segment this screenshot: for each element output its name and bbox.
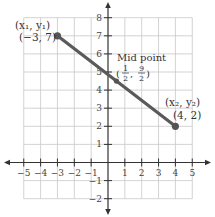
frac2-num: 9: [139, 64, 144, 73]
x-tick-label: −2: [68, 168, 81, 178]
y-tick-label: −1: [89, 176, 102, 186]
x-tick-label: 3: [156, 168, 162, 178]
frac2-den: 2: [139, 74, 144, 83]
comma: ,: [130, 68, 133, 79]
y-axis-down-arrow-icon: [105, 209, 111, 215]
p2-label-variables: (x₂, y₂): [165, 96, 200, 108]
p1-label-coords: (−3, 7): [19, 31, 56, 43]
x-tick-label: 5: [189, 168, 195, 178]
y-tick-label: 2: [96, 121, 102, 131]
y-axis-up-arrow-icon: [105, 2, 111, 8]
y-tick-label: −2: [89, 194, 102, 204]
x-axis-right-arrow-icon: [205, 160, 211, 166]
y-tick-label: 7: [96, 31, 102, 41]
paren-open: (: [116, 68, 120, 79]
y-tick-label: 1: [96, 139, 102, 149]
frac1-den: 2: [123, 74, 128, 83]
y-tick-label: 3: [96, 103, 102, 113]
y-tick-label: 6: [96, 49, 102, 59]
x-tick-label: 4: [173, 168, 179, 178]
p2-label-coords: (4, 2): [173, 109, 201, 121]
midpoint-label: Mid point: [117, 52, 166, 63]
x-tick-label: 2: [139, 168, 145, 178]
p1-label-variables: (x₁, y₁): [15, 19, 50, 31]
x-tick-label: −4: [34, 168, 48, 178]
coordinate-plane: −5−4−3−2−112345−2−112345678 (x₁, y₁) (−3…: [0, 0, 215, 217]
x-tick-label: 1: [122, 168, 128, 178]
x-axis-left-arrow-icon: [4, 160, 10, 166]
paren-close: ): [146, 68, 150, 79]
x-tick-label: −3: [51, 168, 65, 178]
midpoint-coords-fraction: ( 1 2 , 9 2 ): [116, 64, 150, 83]
y-tick-label: 8: [96, 13, 102, 23]
frac1-num: 1: [123, 64, 128, 73]
y-tick-label: 4: [96, 85, 102, 95]
midpoint-dot: [114, 78, 119, 83]
line-segment: [54, 32, 179, 130]
endpoint-dot: [172, 123, 179, 130]
x-tick-label: −5: [17, 168, 31, 178]
